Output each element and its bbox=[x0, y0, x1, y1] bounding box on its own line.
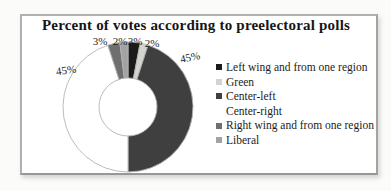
legend-swatch-center-right bbox=[216, 108, 222, 114]
legend-label-liberal: Liberal bbox=[226, 133, 259, 148]
legend-label-left-wing-and-from-one-region: Left wing and from one region bbox=[226, 60, 367, 75]
chart-figure: Percent of votes according to preelector… bbox=[0, 0, 391, 191]
legend: Left wing and from one regionGreenCenter… bbox=[216, 60, 374, 148]
legend-label-center-left: Center-left bbox=[226, 89, 276, 104]
legend-swatch-left-wing-and-from-one-region bbox=[216, 64, 222, 70]
legend-swatch-liberal bbox=[216, 137, 222, 143]
legend-item-left-wing-and-from-one-region: Left wing and from one region bbox=[216, 60, 374, 75]
slice-label-left-wing-and-from-one-region: 3% bbox=[128, 35, 143, 47]
legend-label-green: Green bbox=[226, 75, 254, 90]
legend-item-green: Green bbox=[216, 75, 374, 90]
legend-item-center-right: Center-right bbox=[216, 104, 374, 119]
legend-swatch-right-wing-and-from-one-region bbox=[216, 123, 222, 129]
legend-item-center-left: Center-left bbox=[216, 89, 374, 104]
legend-item-liberal: Liberal bbox=[216, 133, 374, 148]
legend-item-right-wing-and-from-one-region: Right wing and from one region bbox=[216, 118, 374, 133]
slice-label-right-wing-and-from-one-region: 3% bbox=[93, 35, 108, 47]
slice-label-green: 2% bbox=[145, 37, 160, 49]
legend-swatch-green bbox=[216, 79, 222, 85]
legend-label-center-right: Center-right bbox=[226, 104, 282, 119]
legend-label-right-wing-and-from-one-region: Right wing and from one region bbox=[226, 118, 374, 133]
legend-swatch-center-left bbox=[216, 93, 222, 99]
slice-label-liberal: 2% bbox=[113, 35, 128, 47]
